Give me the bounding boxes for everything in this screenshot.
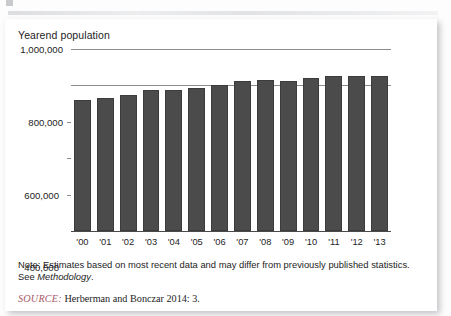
- y-axis-label-600000: 600,000: [24, 189, 59, 200]
- bar-00: [74, 100, 91, 231]
- plot-area: 0200,000400,000600,000800,0001,000,000'0…: [71, 49, 391, 231]
- note-prefix: Note:: [18, 259, 43, 270]
- bar-10: [303, 78, 320, 231]
- bar-01: [97, 98, 114, 231]
- x-axis-label-09: '09: [282, 237, 294, 247]
- source-label: SOURCE:: [18, 293, 62, 304]
- note-italic-term: Methodology: [37, 271, 91, 282]
- x-axis-label-03: '03: [145, 237, 157, 247]
- figure-card: Yearend population 0200,000400,000600,00…: [5, 19, 437, 311]
- x-axis-label-07: '07: [236, 237, 248, 247]
- figure-source: SOURCE: Herberman and Bonczar 2014: 3.: [18, 293, 426, 304]
- bar-08: [257, 80, 274, 231]
- y-axis-label-800000: 800,000: [28, 116, 63, 127]
- bar-13: [371, 76, 388, 231]
- note-end: .: [91, 271, 94, 282]
- x-axis-label-13: '13: [374, 237, 386, 247]
- bar-02: [120, 95, 137, 232]
- bar-03: [143, 90, 160, 231]
- x-axis-label-10: '10: [305, 237, 317, 247]
- bar-05: [188, 88, 205, 231]
- bar-09: [280, 81, 297, 231]
- gridline-400000: 400,000: [67, 158, 71, 159]
- x-axis-label-06: '06: [214, 237, 226, 247]
- chart-title: Yearend population: [18, 29, 110, 41]
- x-axis-label-08: '08: [259, 237, 271, 247]
- gridline-1000000: 1,000,000: [71, 49, 391, 50]
- x-axis-label-11: '11: [328, 237, 339, 247]
- x-axis-label-01: '01: [99, 237, 111, 247]
- x-axis-label-04: '04: [168, 237, 180, 247]
- source-citation: Herberman and Bonczar 2014: 3.: [62, 293, 200, 304]
- x-axis-label-12: '12: [351, 237, 363, 247]
- x-axis-label-05: '05: [191, 237, 203, 247]
- figure-note: Note: Estimates based on most recent dat…: [18, 259, 426, 284]
- caption-marker: [6, 0, 13, 6]
- bar-12: [348, 76, 365, 231]
- bar-06: [211, 85, 228, 231]
- bar-11: [325, 76, 342, 231]
- bar-chart: Yearend population 0200,000400,000600,00…: [5, 19, 437, 251]
- gridline-600000: 600,000: [67, 122, 71, 123]
- y-axis-label-1000000: 1,000,000: [20, 44, 63, 55]
- gridline-0: 0: [71, 231, 391, 232]
- x-axis-label-00: '00: [76, 237, 88, 247]
- cropped-caption-remnant: [8, 11, 438, 15]
- scan-page-background: Yearend population 0200,000400,000600,00…: [0, 0, 451, 316]
- gridline-800000: 800,000: [71, 85, 391, 86]
- x-axis-label-02: '02: [122, 237, 134, 247]
- bar-04: [165, 90, 182, 231]
- bar-07: [234, 81, 251, 231]
- gridline-200000: 200,000: [67, 195, 71, 196]
